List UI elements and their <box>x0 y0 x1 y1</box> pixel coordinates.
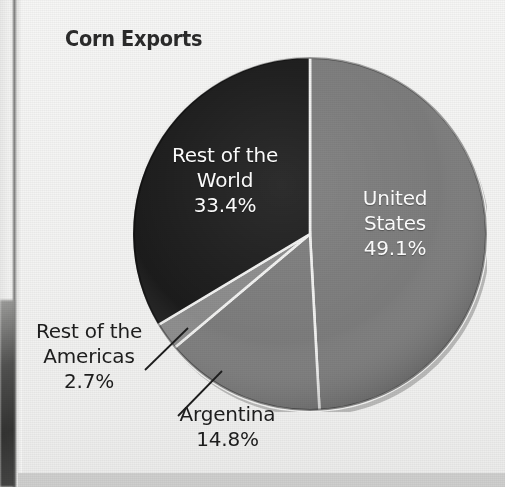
scan-grain-overlay <box>0 0 505 487</box>
figure-page: Corn Exports <box>0 0 505 487</box>
